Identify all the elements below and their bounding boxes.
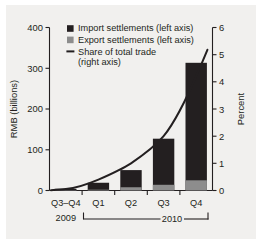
right-tick-label-4: 4 — [219, 76, 224, 87]
bar-export-4 — [186, 180, 207, 190]
left-tick-label-0: 0 — [38, 185, 43, 196]
x-label-q3-q4-2009: Q3–Q4 — [51, 198, 81, 208]
bar-export-3 — [153, 185, 174, 191]
right-axis: 6 5 4 3 2 1 0 Percent — [213, 22, 247, 196]
x-label-q3-2010: Q3 — [157, 198, 169, 208]
x-axis — [50, 191, 213, 196]
right-tick-label-5: 5 — [219, 49, 224, 60]
left-axis: 400 300 200 100 0 RMB (billions) — [8, 22, 50, 196]
chart-canvas: 400 300 200 100 0 RMB (billions) 6 5 4 3… — [0, 0, 262, 244]
bar-import-1 — [88, 183, 109, 191]
bar-export-1 — [88, 190, 109, 191]
legend-swatch-export — [67, 37, 74, 44]
x-label-q1-2010: Q1 — [92, 198, 104, 208]
left-tick-label-300: 300 — [27, 63, 43, 74]
legend-label-share-line2: (right axis) — [78, 57, 121, 67]
legend-swatch-import — [67, 25, 74, 32]
legend-label-import: Import settlements (left axis) — [78, 23, 193, 33]
right-axis-title: Percent — [235, 92, 246, 125]
line-share-of-total-trade — [51, 50, 207, 190]
bar-group-2 — [120, 170, 141, 190]
bar-import-4 — [186, 63, 207, 191]
right-tick-label-2: 2 — [219, 131, 224, 142]
left-axis-title: RMB (billions) — [8, 80, 19, 138]
right-tick-label-1: 1 — [219, 158, 224, 169]
right-tick-label-3: 3 — [219, 104, 224, 115]
right-tick-label-0: 0 — [219, 185, 224, 196]
left-tick-label-400: 400 — [27, 22, 43, 33]
legend-label-share-line1: Share of total trade — [78, 47, 156, 57]
bar-import-3 — [153, 139, 174, 191]
x-group-label-2009: 2009 — [56, 213, 76, 223]
bar-group-3 — [153, 139, 174, 191]
left-tick-label-100: 100 — [27, 144, 43, 155]
chart-legend: Import settlements (left axis) Export se… — [66, 23, 194, 67]
x-category-labels: Q3–Q4 Q1 Q2 Q3 Q4 — [51, 198, 202, 208]
bar-group-4 — [186, 63, 207, 191]
left-tick-label-200: 200 — [27, 103, 43, 114]
right-tick-label-6: 6 — [219, 22, 224, 33]
chart-figure: 400 300 200 100 0 RMB (billions) 6 5 4 3… — [0, 0, 262, 244]
legend-label-export: Export settlements (left axis) — [78, 35, 194, 45]
x-group-label-2010: 2010 — [162, 214, 182, 224]
bar-export-2 — [120, 187, 141, 190]
x-group-labels: 2009 2010 — [56, 213, 209, 225]
x-label-q4-2010: Q4 — [190, 198, 202, 208]
x-label-q2-2010: Q2 — [125, 198, 137, 208]
bar-group-1 — [88, 183, 109, 191]
